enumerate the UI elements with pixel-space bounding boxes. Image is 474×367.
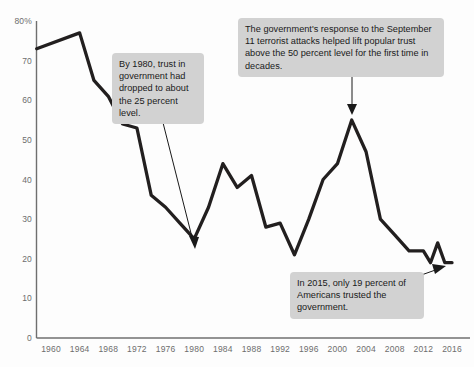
y-tick-20: 20	[2, 254, 32, 264]
x-tick-1992: 1992	[270, 344, 290, 354]
y-tick-30: 30	[2, 214, 32, 224]
leader-arrow-2001	[347, 104, 357, 115]
trust-in-government-chart: 80%706050403020100 196019641968197219761…	[0, 0, 474, 367]
annotation-callout-2015: In 2015, only 19 percent of Americans tr…	[290, 272, 424, 319]
x-tick-1976: 1976	[156, 344, 176, 354]
annotation-callout-1980: By 1980, trust in government had dropped…	[112, 53, 204, 124]
y-tick-40: 40	[2, 175, 32, 185]
x-tick-1968: 1968	[98, 344, 118, 354]
x-tick-2012: 2012	[413, 344, 433, 354]
x-tick-1972: 1972	[127, 344, 147, 354]
y-tick-70: 70	[2, 56, 32, 66]
y-tick-10: 10	[2, 293, 32, 303]
x-tick-1988: 1988	[242, 344, 262, 354]
leader-line-1980	[158, 103, 194, 245]
y-tick-60: 60	[2, 95, 32, 105]
x-tick-1980: 1980	[184, 344, 204, 354]
x-tick-1960: 1960	[41, 344, 61, 354]
annotation-callout-2001: The government's response to the Septemb…	[238, 18, 444, 77]
leader-arrow-1980	[189, 236, 199, 249]
x-tick-2000: 2000	[328, 344, 348, 354]
x-tick-2004: 2004	[356, 344, 376, 354]
y-tick-50: 50	[2, 135, 32, 145]
x-tick-1984: 1984	[213, 344, 233, 354]
x-tick-1996: 1996	[299, 344, 319, 354]
y-tick-80: 80%	[2, 16, 32, 26]
x-tick-1964: 1964	[70, 344, 90, 354]
leader-arrow-2015	[432, 264, 446, 274]
x-tick-2016: 2016	[442, 344, 462, 354]
y-tick-0: 0	[2, 333, 32, 343]
x-tick-2008: 2008	[385, 344, 405, 354]
